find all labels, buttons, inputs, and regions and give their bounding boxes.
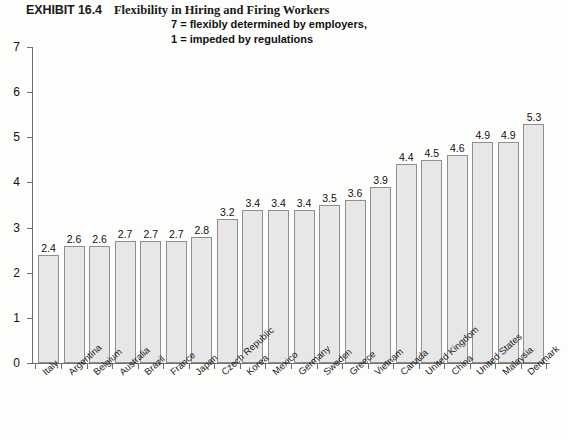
chart-page: EXHIBIT 16.4Flexibility in Hiring and Fi… <box>0 0 569 439</box>
bar <box>115 241 136 363</box>
y-axis-tick: 3 <box>27 228 32 229</box>
bar-value-label: 2.4 <box>35 242 62 254</box>
bar <box>370 187 391 363</box>
bar-value-label: 2.7 <box>163 228 190 240</box>
bar-value-label: 5.3 <box>520 111 547 123</box>
bar-value-label: 4.9 <box>495 129 522 141</box>
y-axis-tick-label: 3 <box>13 220 20 236</box>
y-axis-tick: 7 <box>27 47 32 48</box>
x-axis-tick <box>214 364 215 369</box>
bar <box>319 205 340 363</box>
bar <box>421 160 442 363</box>
chart-subtitle-line-1: 7 = flexibly determined by employers, <box>171 17 546 32</box>
bar-value-label: 2.8 <box>188 224 215 236</box>
y-axis-tick-label: 2 <box>13 265 20 281</box>
x-axis-tick <box>61 364 62 369</box>
bar <box>217 219 238 363</box>
chart-title-block: EXHIBIT 16.4Flexibility in Hiring and Fi… <box>26 3 546 46</box>
bar-value-label: 3.9 <box>367 174 394 186</box>
bar-value-label: 4.6 <box>444 142 471 154</box>
y-axis-tick: 2 <box>27 273 32 274</box>
bar-value-label: 3.5 <box>316 192 343 204</box>
y-axis-tick-label: 4 <box>13 174 20 190</box>
bar-value-label: 3.4 <box>239 197 266 209</box>
bar-value-label: 3.4 <box>265 197 292 209</box>
bar <box>523 124 544 363</box>
y-axis-tick-label: 6 <box>13 84 20 100</box>
x-axis-tick <box>35 364 36 369</box>
bar <box>345 200 366 363</box>
y-axis-tick-label: 0 <box>13 355 20 371</box>
bar-value-label: 3.2 <box>214 206 241 218</box>
x-axis-tick <box>265 364 266 369</box>
x-axis-tick <box>495 364 496 369</box>
bar <box>191 237 212 363</box>
bar-value-label: 4.9 <box>469 129 496 141</box>
y-axis-line <box>32 47 33 363</box>
x-axis-tick <box>342 364 343 369</box>
y-axis-tick: 6 <box>27 92 32 93</box>
plot-area: 01234567 2.42.62.62.72.72.72.83.23.43.43… <box>32 47 550 363</box>
chart-title-line: EXHIBIT 16.4Flexibility in Hiring and Fi… <box>26 3 546 17</box>
bar-value-label: 2.7 <box>112 228 139 240</box>
page-title: Flexibility in Hiring and Firing Workers <box>114 3 329 17</box>
y-axis-tick-label: 7 <box>13 39 20 55</box>
bar-value-label: 4.5 <box>418 147 445 159</box>
bar-value-label: 2.7 <box>137 228 164 240</box>
y-axis-tick-label: 1 <box>13 310 20 326</box>
y-axis-tick: 4 <box>27 182 32 183</box>
x-axis-tick <box>393 364 394 369</box>
bar <box>396 164 417 363</box>
bar <box>64 246 85 363</box>
bar-value-label: 2.6 <box>86 233 113 245</box>
y-axis-tick: 5 <box>27 137 32 138</box>
y-axis-tick: 1 <box>27 318 32 319</box>
bar <box>294 210 315 363</box>
bar-value-label: 3.4 <box>291 197 318 209</box>
bar-value-label: 2.6 <box>61 233 88 245</box>
bar <box>38 255 59 363</box>
x-axis-tick <box>546 364 547 369</box>
exhibit-number: EXHIBIT 16.4 <box>26 3 102 17</box>
x-axis-tick <box>112 364 113 369</box>
y-axis-tick-label: 5 <box>13 129 20 145</box>
bar <box>166 241 187 363</box>
bar-value-label: 4.4 <box>393 151 420 163</box>
x-axis-tick <box>163 364 164 369</box>
bar-value-label: 3.6 <box>342 187 369 199</box>
y-axis-tick: 0 <box>27 363 32 364</box>
chart-subtitle-line-2: 1 = impeded by regulations <box>171 32 546 47</box>
x-axis-tick <box>444 364 445 369</box>
bar <box>268 210 289 363</box>
